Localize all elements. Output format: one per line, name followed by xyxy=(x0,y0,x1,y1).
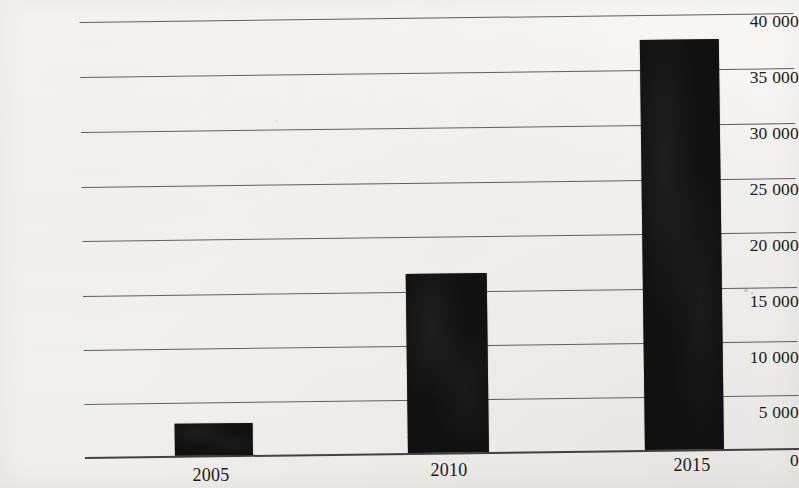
x-tick-label-2005: 2005 xyxy=(173,466,249,484)
bar-2010 xyxy=(406,273,489,453)
bar-chart-figure: 40 000 35 000 30 000 25 000 20 000 15 00… xyxy=(0,0,799,488)
gridline-40000 xyxy=(80,13,794,23)
x-tick-label-2010: 2010 xyxy=(411,461,487,479)
y-tick-label-5000: 5 000 xyxy=(727,404,799,422)
y-tick-label-10000: 10 000 xyxy=(727,349,799,367)
plot-area xyxy=(0,0,799,488)
y-tick-label-0: 0 xyxy=(727,452,799,470)
bar-2015 xyxy=(640,39,724,450)
y-tick-label-30000: 30 000 xyxy=(727,125,799,143)
y-tick-label-20000: 20 000 xyxy=(727,237,799,255)
y-tick-label-35000: 35 000 xyxy=(727,69,799,87)
x-tick-label-2015: 2015 xyxy=(654,456,730,474)
y-tick-label-40000: 40 000 xyxy=(727,13,799,31)
y-tick-label-25000: 25 000 xyxy=(727,181,799,199)
y-tick-label-15000: 15 000 xyxy=(727,293,799,311)
bar-2005 xyxy=(175,423,253,456)
